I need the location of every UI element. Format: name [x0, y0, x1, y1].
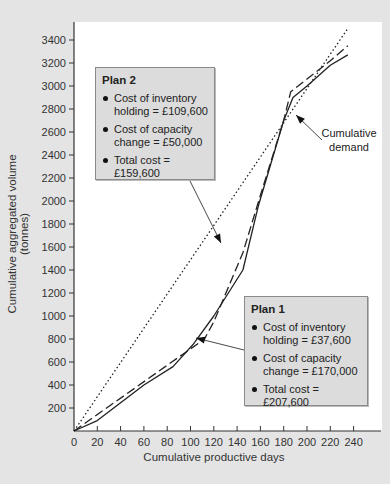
x-tick-label: 40 — [114, 436, 126, 448]
plan1-inventory-cost: Cost of inventory holding = £37,600 — [251, 321, 361, 347]
plan1-title: Plan 1 — [251, 303, 361, 316]
plan2-arrow-head — [214, 233, 221, 243]
x-tick-label: 100 — [181, 436, 199, 448]
y-tick-label: 1400 — [42, 264, 66, 276]
plan2-inventory-cost: Cost of inventory holding = £109,600 — [102, 92, 208, 118]
y-tick-label: 2400 — [42, 149, 66, 161]
y-tick-label: 2200 — [42, 172, 66, 184]
y-tick-label: 1000 — [42, 310, 66, 322]
x-tick-label: 240 — [344, 436, 362, 448]
demand-annotation: Cumulative demand — [314, 126, 384, 154]
x-tick-label: 20 — [91, 436, 103, 448]
plan1-capacity-cost: Cost of capacity change = £170,000 — [251, 352, 361, 378]
x-tick-label: 200 — [298, 436, 316, 448]
y-tick-label: 1200 — [42, 287, 66, 299]
y-tick-label: 400 — [48, 379, 66, 391]
plan2-title: Plan 2 — [102, 74, 208, 87]
x-tick-label: 60 — [138, 436, 150, 448]
plan1-callout: Plan 1 Cost of inventory holding = £37,6… — [244, 296, 368, 406]
y-tick-label: 200 — [48, 402, 66, 414]
plan1-total-cost: Total cost = £207,600 — [251, 383, 361, 409]
x-tick-label: 160 — [251, 436, 269, 448]
x-tick-label: 80 — [161, 436, 173, 448]
x-axis-title: Cumulative productive days — [74, 451, 354, 463]
chart: 2004006008001000120014001600180020002200… — [0, 0, 390, 484]
y-tick-label: 2000 — [42, 195, 66, 207]
y-tick-label: 3000 — [42, 80, 66, 92]
y-tick-label: 800 — [48, 333, 66, 345]
plan2-capacity-cost: Cost of capacity change = £50,000 — [102, 123, 208, 149]
x-tick-label: 120 — [205, 436, 223, 448]
y-tick-label: 2800 — [42, 103, 66, 115]
y-tick-label: 1600 — [42, 241, 66, 253]
plan2-callout: Plan 2 Cost of inventory holding = £109,… — [95, 67, 215, 180]
plan2-arrow — [190, 181, 221, 243]
y-tick-label: 3200 — [42, 57, 66, 69]
plan2-total-cost: Total cost = £159,600 — [102, 154, 208, 180]
x-tick-label: 0 — [71, 436, 77, 448]
y-tick-label: 3400 — [42, 34, 66, 46]
y-axis-title: Cumulative aggregated volume (tonnes) — [6, 134, 30, 334]
y-tick-label: 1800 — [42, 218, 66, 230]
x-tick-label: 220 — [321, 436, 339, 448]
y-tick-label: 2600 — [42, 126, 66, 138]
x-tick-label: 180 — [275, 436, 293, 448]
y-tick-label: 600 — [48, 356, 66, 368]
x-tick-label: 140 — [228, 436, 246, 448]
